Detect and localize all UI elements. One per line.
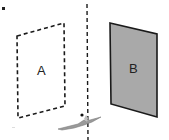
faint-mark: [12, 127, 15, 128]
observer-figure: [58, 113, 101, 130]
image-a-label: A: [37, 63, 46, 78]
corner-dot: [2, 7, 5, 10]
image-a: A: [17, 23, 65, 118]
observer-body: [58, 117, 101, 130]
object-b: B: [110, 23, 157, 117]
object-b-label: B: [129, 61, 138, 76]
eye-point-icon: [80, 113, 83, 116]
mirror-reflection-diagram: A B: [0, 0, 169, 140]
